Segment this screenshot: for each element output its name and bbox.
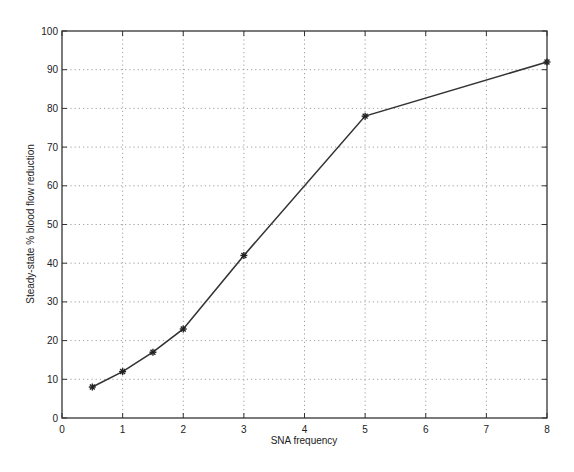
grid-lines: [62, 31, 547, 418]
y-tick-label: 30: [47, 296, 59, 307]
asterisk-marker: [362, 113, 369, 120]
x-tick-label: 8: [544, 424, 550, 435]
x-tick-label: 1: [120, 424, 126, 435]
x-tick-label: 3: [241, 424, 247, 435]
y-tick-label: 80: [47, 103, 59, 114]
asterisk-marker: [89, 384, 96, 391]
y-tick-label: 40: [47, 258, 59, 269]
data-markers: [89, 58, 551, 390]
y-axis-label: Steady-state % blood flow reduction: [25, 144, 36, 304]
asterisk-marker: [119, 368, 126, 375]
y-tick-label: 0: [52, 413, 58, 424]
x-axis-label: SNA frequency: [271, 435, 338, 446]
x-axis-tick-labels: 012345678: [59, 424, 550, 435]
y-tick-label: 50: [47, 219, 59, 230]
asterisk-marker: [544, 58, 551, 65]
x-tick-label: 6: [423, 424, 429, 435]
x-tick-label: 7: [484, 424, 490, 435]
asterisk-marker: [240, 252, 247, 259]
y-tick-label: 60: [47, 180, 59, 191]
y-tick-label: 100: [41, 26, 58, 37]
y-tick-label: 10: [47, 374, 59, 385]
x-tick-label: 0: [59, 424, 65, 435]
y-tick-label: 70: [47, 142, 59, 153]
y-tick-label: 90: [47, 64, 59, 75]
chart: 012345678 0102030405060708090100 SNA fre…: [0, 0, 574, 472]
x-tick-label: 5: [362, 424, 368, 435]
y-tick-label: 20: [47, 335, 59, 346]
x-tick-label: 4: [302, 424, 308, 435]
x-tick-label: 2: [180, 424, 186, 435]
y-axis-tick-labels: 0102030405060708090100: [41, 26, 58, 424]
